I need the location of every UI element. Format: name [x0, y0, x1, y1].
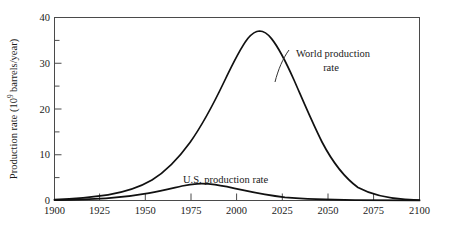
series-label-us-production-rate: U.S. production rate	[183, 174, 268, 185]
y-tick-label-20: 20	[40, 104, 51, 115]
x-tick-label-2075: 2075	[363, 205, 384, 216]
y-axis-title-suffix: barrels/year)	[8, 38, 20, 94]
y-tick-label-40: 40	[40, 12, 51, 23]
y-axis-title: Production rate (109 barrels/year)	[7, 38, 20, 179]
x-tick-label-1925: 1925	[89, 205, 110, 216]
x-tick-label-1950: 1950	[135, 205, 156, 216]
x-tick-label-2025: 2025	[272, 205, 293, 216]
y-axis-title-prefix: Production rate (10	[8, 98, 20, 179]
figure-container: 0 10 20 30 40 1900 1925 1950 1975 2000 2…	[0, 0, 449, 235]
x-tick-label-1900: 1900	[44, 205, 65, 216]
y-tick-label-10: 10	[40, 149, 51, 160]
production-rate-chart: 0 10 20 30 40 1900 1925 1950 1975 2000 2…	[0, 0, 449, 235]
series-label-world-line2: rate	[323, 62, 339, 73]
x-tick-label-1975: 1975	[181, 205, 202, 216]
y-tick-label-30: 30	[40, 58, 51, 69]
svg-text:Production rate (109 barrels/y: Production rate (109 barrels/year)	[7, 38, 20, 179]
x-tick-label-2100: 2100	[409, 205, 430, 216]
series-label-world-line1: World production	[296, 48, 371, 59]
x-tick-label-2050: 2050	[318, 205, 339, 216]
x-tick-label-2000: 2000	[226, 205, 247, 216]
